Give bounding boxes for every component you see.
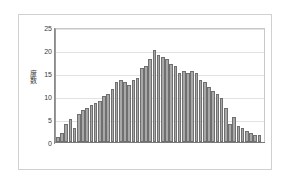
- histogram-bar: [241, 128, 245, 142]
- histogram-bar: [127, 85, 131, 143]
- histogram-bar: [178, 73, 182, 142]
- histogram-bar: [69, 119, 73, 142]
- histogram-bar: [161, 57, 165, 142]
- histogram-bar: [153, 50, 157, 142]
- histogram-bar: [85, 108, 89, 143]
- histogram-bar: [220, 98, 224, 142]
- y-tick-label: 20: [44, 48, 52, 55]
- histogram-bar: [102, 96, 106, 142]
- histogram-bar: [211, 91, 215, 142]
- histogram-bar: [111, 89, 115, 142]
- histogram-bar: [119, 80, 123, 142]
- histogram-bar: [123, 82, 127, 142]
- histogram-bar: [132, 80, 136, 142]
- histogram-bar: [106, 94, 110, 142]
- histogram-bar: [144, 66, 148, 142]
- histogram-bar: [190, 71, 194, 142]
- histogram-bar: [98, 101, 102, 142]
- histogram-bar: [224, 108, 228, 143]
- x-axis-line: [55, 142, 265, 143]
- histogram-bar: [148, 59, 152, 142]
- histogram-bar: [203, 82, 207, 142]
- histogram-bar: [90, 105, 94, 142]
- y-tick-label: 25: [44, 25, 52, 32]
- chart-area: 度数 0510152025: [0, 0, 289, 185]
- y-tick-label: 10: [44, 94, 52, 101]
- plot-box: [55, 28, 265, 143]
- histogram-bar: [195, 73, 199, 142]
- histogram-bar: [174, 66, 178, 142]
- histogram-bar: [216, 94, 220, 142]
- histogram-bar: [77, 114, 81, 142]
- histogram-bar: [232, 117, 236, 142]
- y-axis-tick-labels: 0510152025: [36, 28, 54, 143]
- histogram-bar: [81, 110, 85, 142]
- histogram-bar: [237, 126, 241, 142]
- histogram-bar: [73, 128, 77, 142]
- histogram-bar: [253, 135, 257, 142]
- histogram-bar: [94, 103, 98, 142]
- y-tick-label: 0: [48, 140, 52, 147]
- histogram-bar: [207, 87, 211, 142]
- histogram-bar: [199, 80, 203, 142]
- histogram-bar: [115, 82, 119, 142]
- histogram-bar: [60, 133, 64, 142]
- histogram-bar: [136, 78, 140, 142]
- histogram-bar: [228, 124, 232, 142]
- y-tick-label: 15: [44, 71, 52, 78]
- histogram-bar: [64, 124, 68, 142]
- histogram-bar: [157, 55, 161, 142]
- histogram-bar: [245, 131, 249, 143]
- bar-series: [56, 29, 264, 142]
- histogram-bar: [169, 64, 173, 142]
- y-tick-label: 5: [48, 117, 52, 124]
- histogram-bar: [249, 133, 253, 142]
- histogram-bar: [140, 68, 144, 142]
- histogram-bar: [165, 59, 169, 142]
- histogram-bar: [186, 73, 190, 142]
- histogram-figure: 度数 0510152025: [0, 0, 289, 185]
- histogram-bar: [258, 135, 262, 142]
- histogram-bar: [182, 71, 186, 142]
